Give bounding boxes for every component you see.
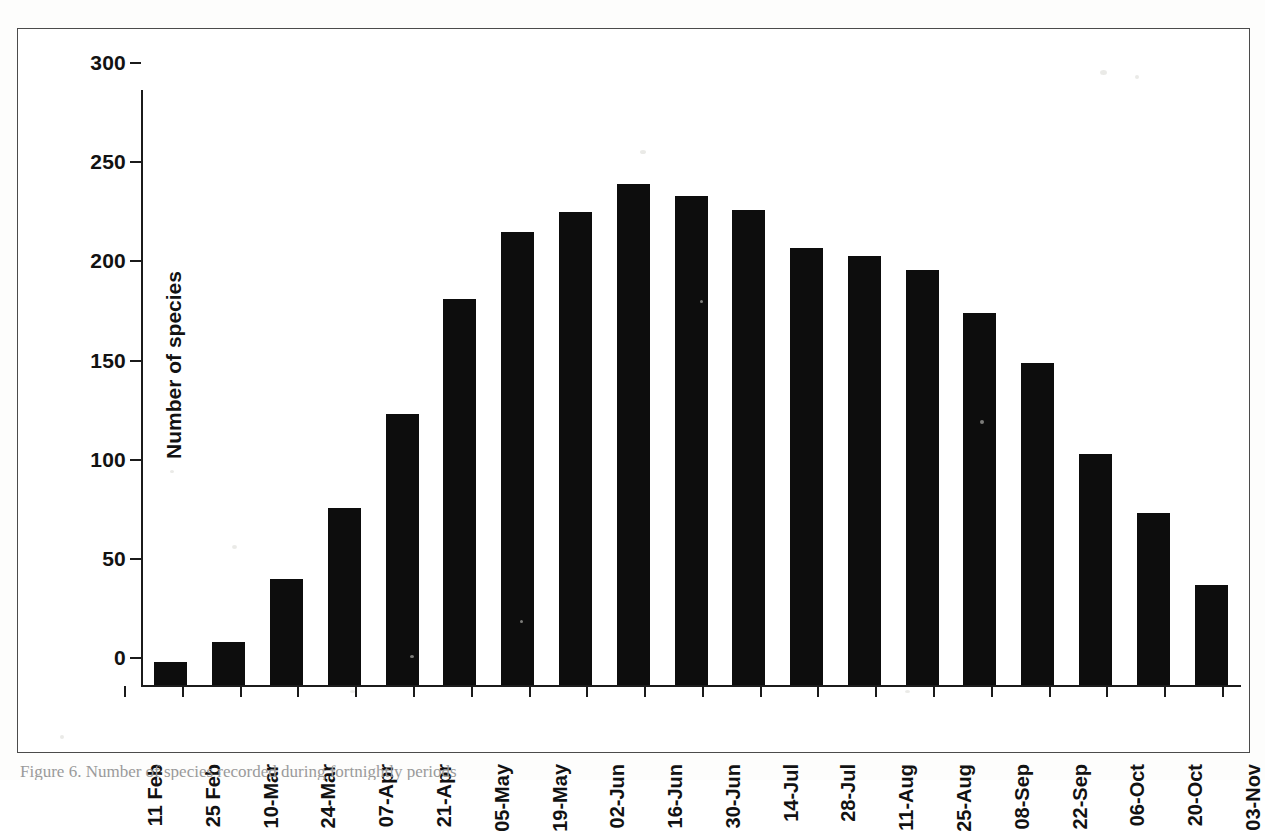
- scan-artifact: [1135, 75, 1139, 79]
- x-axis-tick: [933, 686, 935, 697]
- x-axis-tick: [1164, 686, 1166, 697]
- scan-artifact: [60, 735, 64, 739]
- bar: [1137, 513, 1170, 686]
- x-axis-tick: [471, 686, 473, 697]
- scan-artifact: [980, 420, 984, 424]
- bar: [386, 414, 419, 686]
- bar: [617, 184, 650, 686]
- bar: [1021, 363, 1054, 686]
- x-axis-tick: [124, 686, 126, 697]
- scan-artifact: [232, 545, 237, 549]
- bar: [790, 248, 823, 686]
- scan-artifact: [640, 150, 646, 154]
- x-axis-tick: [297, 686, 299, 697]
- x-axis-tick: [1106, 686, 1108, 697]
- x-axis-tick: [1049, 686, 1051, 697]
- y-axis-tick: [130, 657, 141, 659]
- bar: [154, 662, 187, 686]
- scan-artifact: [905, 690, 910, 693]
- x-axis-tick: [182, 686, 184, 697]
- y-axis-line: [141, 90, 143, 687]
- x-axis-tick: [760, 686, 762, 697]
- y-axis-tick: [130, 260, 141, 262]
- x-axis-tick: [875, 686, 877, 697]
- bar: [328, 508, 361, 687]
- y-axis-tick-label: 200: [30, 250, 126, 271]
- bar: [963, 313, 996, 686]
- figure-frame: Number of species 11 Feb25 Feb10-Mar24-M…: [17, 28, 1250, 753]
- y-axis-tick-label: 150: [30, 350, 126, 371]
- x-axis-tick: [413, 686, 415, 697]
- x-axis-tick-label: 20-Oct: [1185, 764, 1205, 835]
- scan-artifact: [410, 655, 414, 658]
- x-axis-tick: [702, 686, 704, 697]
- x-axis-tick: [240, 686, 242, 697]
- y-axis-tick-label: 300: [30, 52, 126, 73]
- plot-area: Number of species 11 Feb25 Feb10-Mar24-M…: [142, 91, 1240, 686]
- x-axis-tick-label: 22-Sep: [1070, 764, 1090, 835]
- scan-artifact: [520, 620, 523, 623]
- bar: [1079, 454, 1112, 686]
- bar: [212, 642, 245, 686]
- x-axis-tick: [355, 686, 357, 697]
- y-axis-tick-label: 0: [30, 647, 126, 668]
- x-axis-tick: [586, 686, 588, 697]
- scan-artifact: [170, 470, 174, 473]
- y-axis-tick: [130, 459, 141, 461]
- bar: [1195, 585, 1228, 686]
- y-axis-tick: [130, 360, 141, 362]
- bar: [848, 256, 881, 686]
- x-axis-tick-label: 03-Nov: [1243, 764, 1263, 835]
- bar: [906, 270, 939, 687]
- x-axis-tick-label: 25-Aug: [954, 764, 974, 835]
- y-axis-tick-label: 100: [30, 449, 126, 470]
- figure-caption: Figure 6. Number of species recorded dur…: [20, 762, 920, 780]
- x-axis-tick: [1222, 686, 1224, 697]
- bar: [270, 579, 303, 686]
- bar: [675, 196, 708, 686]
- y-axis-tick: [130, 558, 141, 560]
- x-axis-tick-label: 08-Sep: [1012, 764, 1032, 835]
- x-axis-tick: [529, 686, 531, 697]
- x-axis-tick: [817, 686, 819, 697]
- scan-artifact: [700, 300, 703, 303]
- x-axis-tick: [644, 686, 646, 697]
- x-axis-line: [141, 685, 1241, 687]
- y-axis-title: Number of species: [162, 165, 186, 565]
- bar: [443, 299, 476, 686]
- bar: [559, 212, 592, 686]
- x-axis-tick-label: 06-Oct: [1127, 764, 1147, 835]
- x-axis-tick: [991, 686, 993, 697]
- y-axis-tick-label: 250: [30, 151, 126, 172]
- y-axis-tick: [130, 161, 141, 163]
- bar: [501, 232, 534, 686]
- y-axis-tick: [130, 62, 141, 64]
- scan-artifact: [350, 690, 355, 693]
- bar: [732, 210, 765, 686]
- scan-artifact: [1100, 70, 1107, 75]
- y-axis-tick-label: 50: [30, 548, 126, 569]
